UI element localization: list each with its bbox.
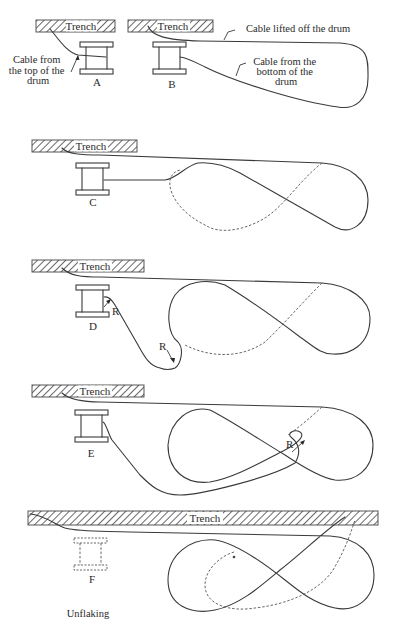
panel-label-c: C (89, 196, 96, 208)
panel-b: Trench Cable lifted off the drum Cable f… (128, 20, 368, 108)
trench-label: Trench (76, 140, 107, 152)
trench-a: Trench (36, 20, 115, 32)
panel-label-d: D (89, 320, 97, 332)
annotation-cable-lifted: Cable lifted off the drum (246, 23, 350, 34)
annotation-top-of-drum: Cable from the top of the drum (9, 54, 67, 86)
trench-b: Trench (128, 20, 213, 32)
drum-f (74, 538, 107, 570)
panel-label-a: A (93, 76, 101, 88)
trench-label: Trench (80, 385, 111, 397)
panel-c: Trench C (32, 140, 368, 230)
panel-e: Trench R E (32, 385, 373, 495)
trench-label: Trench (190, 512, 221, 524)
caption-unflaking: Unflaking (67, 608, 110, 619)
radius-label: R (286, 438, 294, 450)
trench-e: Trench (32, 385, 144, 397)
panel-d: Trench R R D (32, 260, 370, 370)
panel-f: Trench F Unflaking (28, 511, 378, 619)
trench-c: Trench (32, 140, 137, 152)
panel-label-e: E (88, 447, 95, 459)
trench-label: Trench (80, 260, 111, 272)
drum-a (80, 42, 113, 74)
panel-label-f: F (89, 573, 95, 585)
cable-unflaking-diagram: Trench Cable from the top of the drum A … (0, 0, 393, 634)
panel-a: Trench Cable from the top of the drum A (9, 20, 115, 88)
trench-label: Trench (158, 20, 189, 32)
drum-e (75, 410, 108, 442)
trench-f: Trench (28, 511, 378, 525)
trench-d: Trench (32, 260, 144, 272)
annotation-bottom-of-drum: Cable from the bottom of the drum (253, 56, 319, 87)
drum-c (76, 163, 109, 195)
trench-label: Trench (66, 20, 97, 32)
radius-label-2: R (159, 340, 167, 352)
panel-label-b: B (168, 78, 175, 90)
radius-label-1: R (112, 305, 120, 317)
drum-d (76, 285, 109, 317)
drum-b (153, 42, 186, 74)
